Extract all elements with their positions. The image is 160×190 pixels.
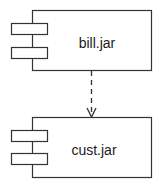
- component-cust-jar[interactable]: cust.jar: [12, 118, 152, 178]
- component-bill-jar[interactable]: bill.jar: [12, 11, 152, 71]
- component-tab-top: [12, 24, 48, 35]
- component-label: bill.jar: [79, 35, 116, 51]
- component-tab-bottom: [12, 154, 48, 165]
- component-label: cust.jar: [71, 142, 116, 158]
- component-tab-top: [12, 131, 48, 142]
- component-diagram: bill.jar cust.jar: [0, 0, 160, 190]
- component-tab-bottom: [12, 48, 48, 59]
- dependency-arrow[interactable]: [87, 71, 96, 117]
